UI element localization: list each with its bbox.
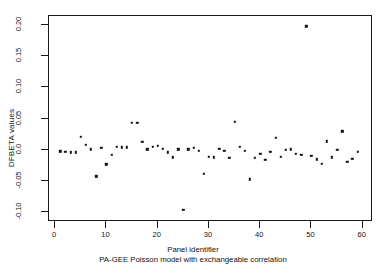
data-point [274,137,276,139]
data-point [239,146,241,148]
data-point [80,136,82,138]
data-point [69,151,71,153]
data-point [259,152,261,154]
data-point [105,163,107,165]
data-point [121,146,123,148]
data-point [100,147,102,149]
data-point [321,162,323,164]
data-point [59,150,61,152]
figure-caption: PA-GEE Poisson model with exchangeable c… [0,255,386,265]
data-point [172,156,174,158]
data-point [254,157,256,159]
y-axis-tick-label-text: 0.0 [15,144,23,154]
data-point [213,156,215,158]
data-point [85,144,87,146]
y-axis-tick [41,118,48,119]
data-point [244,149,246,151]
data-point [346,161,348,163]
y-axis-tick [41,24,48,25]
y-axis-tick [41,211,48,212]
data-point [177,148,179,150]
data-point [341,130,343,132]
data-point [223,149,225,151]
x-axis-tick-label: 0 [52,230,56,239]
data-point [146,148,148,150]
data-point [315,158,317,160]
data-point [228,157,230,159]
data-point [64,151,66,153]
data-point [208,156,210,158]
x-axis-tick-label: 60 [358,230,366,239]
data-point [182,209,184,211]
data-point [285,149,287,151]
x-axis-tick [105,221,106,228]
data-point [95,175,97,177]
x-axis-tick-label: 30 [204,230,212,239]
x-axis-tick [259,221,260,228]
data-point [218,147,220,149]
y-axis-tick-label-text: 0.20 [15,17,23,32]
data-point [300,154,302,156]
y-axis-tick [41,180,48,181]
dfbeta-scatter-figure: 0.200.150.100.050.0-0.05-0.10 0102030405… [0,0,386,275]
x-axis-tick [310,221,311,228]
x-axis-tick-label: 50 [306,230,314,239]
data-point [280,156,282,158]
y-axis-tick [41,55,48,56]
y-axis-tick-label-text: 0.05 [15,110,23,125]
data-point [90,148,92,150]
data-point [269,151,271,153]
x-axis-title: Panel identifier [0,245,386,255]
data-point [356,151,358,153]
x-axis-tick [54,221,55,228]
data-point [203,172,205,174]
data-point [305,25,307,27]
data-point [331,156,333,158]
x-axis-tick-label: 20 [153,230,161,239]
data-point [197,149,199,151]
y-axis-tick-label-text: -0.05 [15,172,23,189]
y-axis-tick-label-text: 0.10 [15,79,23,94]
data-point [131,122,133,124]
data-point [264,159,266,161]
data-point [136,122,138,124]
data-point [326,140,328,142]
y-axis-tick-label-text: -0.10 [15,203,23,220]
data-point [310,154,312,156]
data-point [290,148,292,150]
data-point [74,151,76,153]
data-point [336,149,338,151]
data-point [249,178,251,180]
data-point [110,154,112,156]
x-axis-tick [157,221,158,228]
data-point [295,152,297,154]
y-axis-title-text: DFBETA values [7,108,16,166]
data-point [233,121,235,123]
data-point [126,146,128,148]
x-axis-tick-label: 10 [101,230,109,239]
scatter-points-layer [49,16,371,220]
x-axis-tick-label: 40 [255,230,263,239]
data-point [141,141,143,143]
data-point [192,147,194,149]
y-axis-tick-label-text: 0.15 [15,48,23,63]
data-point [167,151,169,153]
data-point [115,146,117,148]
data-point [162,147,164,149]
y-axis-tick [41,149,48,150]
plot-area [48,15,372,221]
y-axis-tick [41,86,48,87]
data-point [187,148,189,150]
x-axis-tick [208,221,209,228]
data-point [151,146,153,148]
data-point [156,144,158,146]
x-axis-tick [362,221,363,228]
data-point [351,157,353,159]
